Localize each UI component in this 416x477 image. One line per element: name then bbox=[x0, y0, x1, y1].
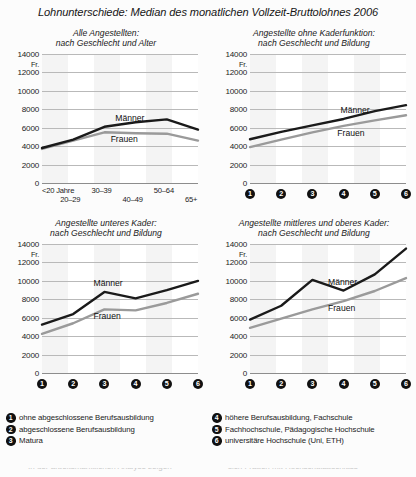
series-label-maenner: Männer bbox=[115, 113, 144, 123]
x-axis-tick: 50–64 bbox=[154, 186, 174, 195]
y-axis-tick: 2000 bbox=[230, 350, 247, 359]
x-axis-bullet-2: 2 bbox=[68, 379, 78, 389]
series-label-frauen: Frauen bbox=[328, 303, 355, 313]
y-axis-labels: 14000120001000080006000400020000Fr. bbox=[0, 54, 40, 183]
x-axis-bullet-3: 3 bbox=[307, 379, 317, 389]
chart-title: Alle Angestellten: nach Geschlecht und A… bbox=[8, 28, 204, 49]
chart-title-line1: Angestellte ohne Kaderfunktion: bbox=[216, 28, 412, 38]
y-axis-tick: 4000 bbox=[230, 332, 247, 341]
legend-item: 3Matura bbox=[6, 435, 210, 447]
y-axis-tick: 8000 bbox=[22, 295, 39, 304]
x-axis-bullet-3: 3 bbox=[307, 189, 317, 199]
legend-left: 1ohne abgeschlossene Berufsausbildung2ab… bbox=[6, 412, 210, 447]
x-axis-bullet-6: 6 bbox=[401, 379, 411, 389]
y-axis-unit: Fr. bbox=[239, 60, 247, 69]
y-axis-tick: 10000 bbox=[17, 86, 39, 95]
chart-title: Angestellte unteres Kader: nach Geschlec… bbox=[8, 218, 204, 239]
x-axis-tick: <20 Jahre bbox=[42, 186, 74, 195]
y-axis-tick: 2000 bbox=[230, 160, 247, 169]
x-axis-bullet-5: 5 bbox=[162, 379, 172, 389]
chart-panel-unteres-kader: Angestellte unteres Kader: nach Geschlec… bbox=[0, 218, 208, 404]
legend-label: ohne abgeschlossene Berufsausbildung bbox=[19, 412, 210, 424]
y-axis-tick: 14000 bbox=[17, 50, 39, 59]
y-axis-tick: 8000 bbox=[22, 105, 39, 114]
y-axis-tick: 0 bbox=[35, 179, 39, 188]
y-axis-tick: 12000 bbox=[225, 258, 247, 267]
chart-page: Lohnunterschiede: Median des monatlichen… bbox=[0, 0, 416, 477]
chart-title-line2: nach Geschlecht und Alter bbox=[8, 38, 204, 48]
legend-bullet-6: 6 bbox=[212, 436, 222, 446]
series-label-frauen: Frauen bbox=[93, 311, 120, 321]
legend-item: 5Fachhochschule, Pädagogische Hochschule bbox=[212, 424, 416, 436]
x-axis-bullet-6: 6 bbox=[401, 189, 411, 199]
y-axis-tick: 0 bbox=[243, 369, 247, 378]
chart-title-line1: Alle Angestellten: bbox=[8, 28, 204, 38]
y-axis-tick: 4000 bbox=[230, 142, 247, 151]
y-axis-tick: 4000 bbox=[22, 142, 39, 151]
x-axis-line bbox=[42, 183, 198, 184]
chart-title-line2: nach Geschlecht und Bildung bbox=[216, 228, 412, 238]
series-line-maenner bbox=[250, 105, 406, 139]
chart-title-line2: nach Geschlecht und Bildung bbox=[216, 38, 412, 48]
y-axis-labels: 14000120001000080006000400020000Fr. bbox=[208, 244, 248, 373]
legend-bullet-1: 1 bbox=[6, 413, 16, 423]
x-axis-bullet-6: 6 bbox=[193, 379, 203, 389]
legend-label: abgeschlossene Berufsausbildung bbox=[19, 424, 210, 436]
y-axis-tick: 12000 bbox=[225, 68, 247, 77]
x-axis-labels: <20 Jahre20–2930–3940–4950–6465+ bbox=[42, 185, 202, 211]
footer-cutoff-text-left: In der arbeitsmarktlichen Analyse zeigen bbox=[28, 468, 172, 471]
y-axis-tick: 12000 bbox=[17, 68, 39, 77]
chart-title-line1: Angestellte mittleres und oberes Kader: bbox=[216, 218, 412, 228]
y-axis-unit: Fr. bbox=[31, 250, 39, 259]
x-axis-line bbox=[42, 373, 198, 374]
legend-item: 6universitäre Hochschule (Uni, ETH) bbox=[212, 435, 416, 447]
y-axis-tick: 2000 bbox=[22, 350, 39, 359]
y-axis-tick: 14000 bbox=[225, 240, 247, 249]
x-axis-bullet-3: 3 bbox=[99, 379, 109, 389]
y-axis-tick: 6000 bbox=[22, 313, 39, 322]
x-axis-bullet-1: 1 bbox=[245, 379, 255, 389]
legend-label: Matura bbox=[19, 435, 210, 447]
chart-panel-alle-angestellten: Alle Angestellten: nach Geschlecht und A… bbox=[0, 28, 208, 214]
chart-title: Angestellte mittleres und oberes Kader: … bbox=[216, 218, 412, 239]
y-axis-tick: 6000 bbox=[230, 123, 247, 132]
y-axis-tick: 10000 bbox=[225, 276, 247, 285]
page-title: Lohnunterschiede: Median des monatlichen… bbox=[0, 6, 416, 18]
legend-item: 1ohne abgeschlossene Berufsausbildung bbox=[6, 412, 210, 424]
chart-panel-mittleres-oberes-kader: Angestellte mittleres und oberes Kader: … bbox=[208, 218, 416, 404]
y-axis-tick: 0 bbox=[243, 179, 247, 188]
y-axis-tick: 10000 bbox=[225, 86, 247, 95]
legend-right: 4höhere Berufsausbildung, Fachschule5Fac… bbox=[212, 412, 416, 447]
x-axis-bullet-1: 1 bbox=[37, 379, 47, 389]
chart-panel-ohne-kaderfunktion: Angestellte ohne Kaderfunktion: nach Ges… bbox=[208, 28, 416, 214]
y-axis-unit: Fr. bbox=[239, 250, 247, 259]
legend-label: höhere Berufsausbildung, Fachschule bbox=[225, 412, 416, 424]
y-axis-tick: 12000 bbox=[17, 258, 39, 267]
x-axis-bullet-2: 2 bbox=[276, 189, 286, 199]
x-axis-tick: 40–49 bbox=[123, 195, 143, 204]
x-axis-bullet-4: 4 bbox=[339, 379, 349, 389]
y-axis-tick: 0 bbox=[35, 369, 39, 378]
y-axis-tick: 2000 bbox=[22, 160, 39, 169]
x-axis-labels: 123456 bbox=[250, 377, 406, 393]
y-axis-unit: Fr. bbox=[31, 60, 39, 69]
plot-area: MännerFrauen bbox=[250, 54, 406, 183]
legend-bullet-4: 4 bbox=[212, 413, 222, 423]
x-axis-bullet-1: 1 bbox=[245, 189, 255, 199]
x-axis-bullet-5: 5 bbox=[370, 379, 380, 389]
x-axis-tick: 65+ bbox=[185, 195, 197, 204]
legend-label: Fachhochschule, Pädagogische Hochschule bbox=[225, 424, 416, 436]
legend-item: 2abgeschlossene Berufsausbildung bbox=[6, 424, 210, 436]
y-axis-tick: 4000 bbox=[22, 332, 39, 341]
series-label-maenner: Männer bbox=[340, 105, 369, 115]
y-axis-tick: 8000 bbox=[230, 295, 247, 304]
x-axis-tick: 30–39 bbox=[91, 186, 111, 195]
legend-bullet-2: 2 bbox=[6, 425, 16, 435]
y-axis-labels: 14000120001000080006000400020000Fr. bbox=[0, 244, 40, 373]
x-axis-bullet-2: 2 bbox=[276, 379, 286, 389]
y-axis-tick: 6000 bbox=[22, 123, 39, 132]
chart-title-line1: Angestellte unteres Kader: bbox=[8, 218, 204, 228]
plot-area: MännerFrauen bbox=[42, 54, 198, 183]
x-axis-bullet-4: 4 bbox=[339, 189, 349, 199]
x-axis-line bbox=[250, 183, 406, 184]
